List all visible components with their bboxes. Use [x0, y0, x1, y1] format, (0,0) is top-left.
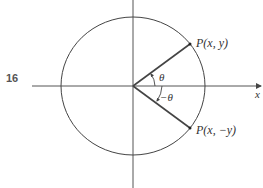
point-lower — [189, 127, 192, 130]
angle-arc-upper — [151, 74, 155, 86]
label-point-lower: P(x, −y) — [195, 123, 236, 137]
point-upper — [189, 43, 192, 46]
label-angle-neg-theta: −θ — [160, 91, 173, 103]
label-x-axis: x — [254, 88, 260, 100]
unit-circle-diagram: P(x, y) P(x, −y) θ −θ x — [0, 0, 263, 188]
label-point-upper: P(x, y) — [195, 36, 228, 50]
label-angle-theta: θ — [159, 71, 165, 83]
